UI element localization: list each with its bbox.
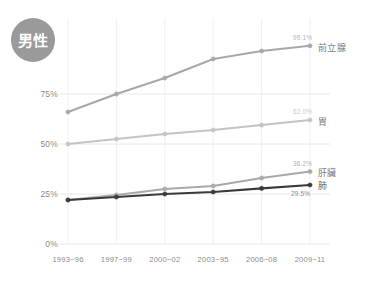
series-label-0: 前立腺 xyxy=(318,44,346,53)
data-point xyxy=(211,128,215,132)
data-point xyxy=(260,123,264,127)
gender-badge: 男性 xyxy=(11,18,55,62)
data-point xyxy=(260,186,264,190)
series-label-3: 肺 xyxy=(318,182,327,191)
data-point xyxy=(211,184,215,188)
y-axis-tick-75: 75% xyxy=(16,90,58,99)
data-point xyxy=(114,137,118,141)
series-label-2: 肝臟 xyxy=(318,169,337,178)
data-point xyxy=(66,110,70,114)
data-point xyxy=(308,44,312,48)
data-point xyxy=(114,92,118,96)
series-line-0 xyxy=(68,46,310,112)
series-line-2 xyxy=(68,172,310,200)
series-label-1: 胃 xyxy=(318,118,327,127)
series-end-value-3: 29.5% xyxy=(291,191,310,197)
y-axis-tick-25: 25% xyxy=(16,190,58,199)
data-point xyxy=(308,170,312,174)
data-point xyxy=(211,190,215,194)
series-end-value-1: 62.0% xyxy=(293,109,312,115)
data-point xyxy=(260,176,264,180)
series-line-1 xyxy=(68,120,310,144)
data-point xyxy=(163,76,167,80)
data-point xyxy=(308,118,312,122)
data-point xyxy=(66,198,70,202)
data-point xyxy=(66,142,70,146)
x-axis-tick-5: 2009~11 xyxy=(295,256,326,264)
data-point xyxy=(211,57,215,61)
x-axis-tick-3: 2003~95 xyxy=(198,256,229,264)
series-end-value-0: 99.1% xyxy=(293,35,312,41)
data-point xyxy=(114,195,118,199)
x-axis-tick-2: 2000~02 xyxy=(149,256,180,264)
data-point xyxy=(308,183,312,187)
x-axis-tick-1: 1997~99 xyxy=(101,256,132,264)
data-point xyxy=(163,187,167,191)
data-point xyxy=(163,192,167,196)
x-axis-tick-4: 2006~08 xyxy=(246,256,277,264)
y-axis-tick-50: 50% xyxy=(16,140,58,149)
series-end-value-2: 36.2% xyxy=(293,161,312,167)
y-axis-tick-0: 0% xyxy=(16,240,58,249)
data-point xyxy=(163,132,167,136)
x-axis-tick-0: 1993~96 xyxy=(52,256,83,264)
gender-badge-label: 男性 xyxy=(18,33,49,48)
chart-container: 男性 75%50%25%0% 1993~961997~992000~022003… xyxy=(0,0,375,284)
data-point xyxy=(260,49,264,53)
